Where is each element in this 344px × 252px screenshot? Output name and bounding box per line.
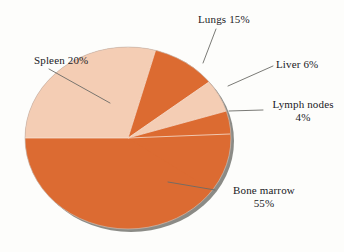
slice-label-bone-marrow-value: 55% — [218, 197, 310, 210]
slice-label-liver: Liver 6% — [276, 58, 318, 71]
leader-line-liver — [228, 66, 273, 86]
slice-label-bone-marrow-name: Bone marrow — [218, 184, 310, 197]
slice-label-spleen: Spleen 20% — [34, 54, 88, 67]
pie-chart-canvas — [0, 0, 344, 252]
leader-line-lungs — [203, 29, 216, 63]
slice-label-lymph-nodes: Lymph nodes 4% — [266, 98, 340, 123]
leader-line-lymph-nodes — [229, 110, 263, 111]
pie-chart-figure: Lungs 15% Liver 6% Lymph nodes 4% Spleen… — [0, 0, 344, 252]
slice-label-lungs: Lungs 15% — [198, 13, 250, 26]
slice-label-bone-marrow: Bone marrow 55% — [218, 184, 310, 209]
slice-label-lymph-nodes-name: Lymph nodes — [266, 98, 340, 111]
slice-label-lymph-nodes-value: 4% — [266, 111, 340, 124]
